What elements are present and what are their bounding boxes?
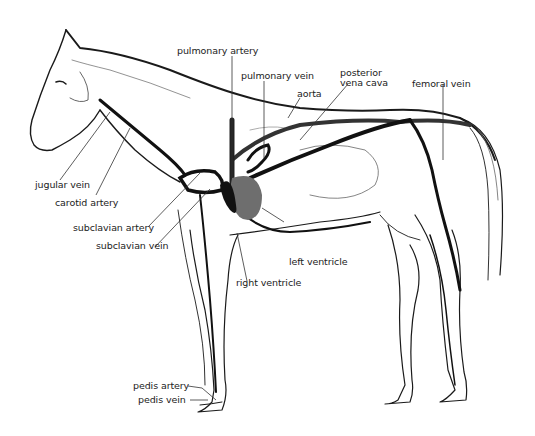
horse-illustration	[0, 0, 535, 436]
horse-circulatory-diagram: pulmonary artery pulmonary vein aorta po…	[0, 0, 535, 436]
label-carotid-artery: carotid artery	[55, 197, 118, 208]
label-right-ventricle: right ventricle	[236, 277, 301, 288]
label-pulmonary-artery: pulmonary artery	[177, 45, 258, 56]
subclavian-vessel	[180, 171, 223, 193]
label-left-ventricle: left ventricle	[289, 256, 347, 267]
horse-outline	[66, 30, 495, 160]
label-pedis-artery: pedis artery	[133, 380, 189, 391]
label-subclavian-artery: subclavian artery	[73, 222, 154, 233]
label-pedis-vein: pedis vein	[138, 394, 186, 405]
label-pulmonary-vein: pulmonary vein	[241, 70, 314, 81]
heart	[230, 176, 262, 220]
vena-cava-vessel	[250, 120, 410, 178]
label-femoral-vein: femoral vein	[412, 78, 471, 89]
label-aorta: aorta	[297, 88, 322, 99]
label-subclavian-vein: subclavian vein	[96, 240, 168, 251]
label-posterior-vena-cava-line2: vena cava	[340, 77, 388, 88]
jugular-vein-vessel	[100, 100, 185, 175]
label-jugular-vein: jugular vein	[35, 179, 90, 190]
